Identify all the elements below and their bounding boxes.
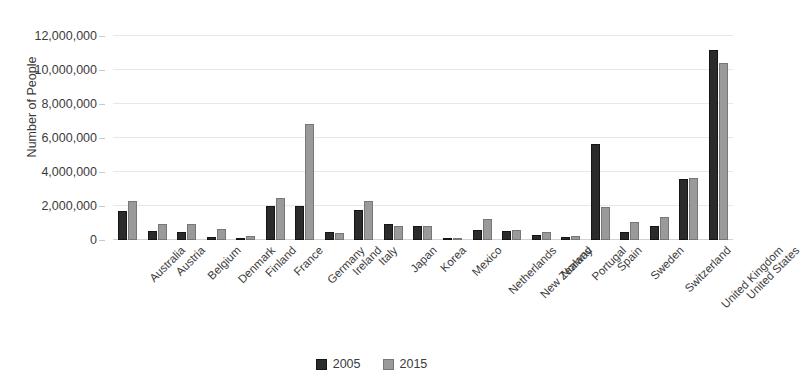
y-axis-tick-label: 2,000,000 bbox=[41, 199, 97, 213]
y-axis-tick-label: 4,000,000 bbox=[41, 165, 97, 179]
bar-2005 bbox=[384, 224, 393, 240]
y-axis-tick-mark bbox=[99, 240, 105, 241]
bar-2015 bbox=[630, 222, 639, 240]
bar-2015 bbox=[719, 63, 728, 240]
y-axis-ticks: 02,000,0004,000,0006,000,0008,000,00010,… bbox=[0, 36, 105, 240]
bar-2015 bbox=[571, 236, 580, 240]
bar-2005 bbox=[443, 238, 452, 240]
bar-group bbox=[438, 36, 468, 240]
x-axis-label: Sweden bbox=[648, 244, 686, 282]
bar-2005 bbox=[354, 210, 363, 240]
y-axis-tick-mark bbox=[99, 138, 105, 139]
y-axis-tick-label: 0 bbox=[90, 233, 97, 247]
bar-group bbox=[202, 36, 232, 240]
bar-group bbox=[615, 36, 645, 240]
bar-group bbox=[143, 36, 173, 240]
bar-2015 bbox=[217, 229, 226, 240]
x-axis-labels: AustraliaAustriaBelgiumDenmarkFinlandFra… bbox=[113, 244, 733, 344]
bar-group bbox=[703, 36, 733, 240]
x-axis-label: France bbox=[292, 244, 326, 278]
y-axis-tick-mark bbox=[99, 172, 105, 173]
y-axis-tick-mark bbox=[99, 104, 105, 105]
x-axis-label: Mexico bbox=[469, 244, 503, 278]
bar-2015 bbox=[305, 124, 314, 240]
bar-2015 bbox=[187, 224, 196, 240]
bar-2015 bbox=[364, 201, 373, 240]
bar-2015 bbox=[512, 230, 521, 240]
x-axis-label: Korea bbox=[438, 244, 468, 274]
bar-group bbox=[497, 36, 527, 240]
bar-group bbox=[408, 36, 438, 240]
legend-item-2015: 2015 bbox=[383, 357, 428, 371]
y-axis-tick-mark bbox=[99, 206, 105, 207]
y-axis-tick-label: 12,000,000 bbox=[34, 29, 97, 43]
x-axis-label: Switzerland bbox=[683, 244, 734, 295]
bar-2005 bbox=[561, 237, 570, 240]
bar-2015 bbox=[453, 238, 462, 240]
bar-2005 bbox=[620, 232, 629, 240]
bar-group bbox=[585, 36, 615, 240]
bar-group bbox=[526, 36, 556, 240]
bar-group bbox=[113, 36, 143, 240]
bar-2015 bbox=[394, 226, 403, 240]
chart-legend: 2005 2015 bbox=[0, 357, 743, 371]
bar-2015 bbox=[128, 201, 137, 240]
bar-2015 bbox=[246, 236, 255, 240]
bar-group bbox=[231, 36, 261, 240]
bar-2005 bbox=[148, 231, 157, 240]
y-axis-tick-label: 10,000,000 bbox=[34, 63, 97, 77]
bar-group bbox=[290, 36, 320, 240]
legend-swatch-2005 bbox=[316, 359, 327, 370]
bar-2005 bbox=[295, 206, 304, 240]
bar-2015 bbox=[660, 217, 669, 240]
y-axis-tick-label: 6,000,000 bbox=[41, 131, 97, 145]
y-axis-tick-mark bbox=[99, 70, 105, 71]
y-axis-tick-mark bbox=[99, 36, 105, 37]
legend-label-2015: 2015 bbox=[400, 357, 428, 371]
bar-2005 bbox=[502, 231, 511, 240]
bar-2005 bbox=[532, 235, 541, 240]
x-axis-label: Japan bbox=[409, 244, 440, 275]
bar-2015 bbox=[423, 226, 432, 240]
bar-group bbox=[467, 36, 497, 240]
y-axis-tick-label: 8,000,000 bbox=[41, 97, 97, 111]
bar-2005 bbox=[325, 232, 334, 241]
bar-2005 bbox=[118, 211, 127, 240]
bar-2015 bbox=[542, 232, 551, 240]
bar-2015 bbox=[158, 224, 167, 240]
legend-label-2005: 2005 bbox=[333, 357, 361, 371]
bar-2015 bbox=[276, 198, 285, 241]
bar-group bbox=[261, 36, 291, 240]
legend-item-2005: 2005 bbox=[316, 357, 361, 371]
bar-2005 bbox=[266, 206, 275, 240]
bar-group bbox=[349, 36, 379, 240]
bar-group bbox=[379, 36, 409, 240]
bar-group bbox=[644, 36, 674, 240]
bar-2015 bbox=[335, 233, 344, 240]
bar-2015 bbox=[483, 219, 492, 240]
bar-2015 bbox=[689, 178, 698, 240]
bar-2005 bbox=[236, 238, 245, 240]
bar-2005 bbox=[709, 50, 718, 240]
bar-2005 bbox=[413, 226, 422, 240]
legend-swatch-2015 bbox=[383, 359, 394, 370]
bar-group bbox=[556, 36, 586, 240]
bar-group bbox=[674, 36, 704, 240]
bar-2005 bbox=[650, 226, 659, 240]
bar-series-container bbox=[113, 36, 733, 240]
bar-group bbox=[320, 36, 350, 240]
bar-2005 bbox=[207, 237, 216, 240]
bar-2005 bbox=[591, 144, 600, 240]
bar-2005 bbox=[679, 179, 688, 240]
plot-area bbox=[113, 36, 733, 240]
bar-2015 bbox=[601, 207, 610, 240]
bar-2005 bbox=[177, 232, 186, 240]
bar-group bbox=[172, 36, 202, 240]
bar-2005 bbox=[473, 230, 482, 240]
